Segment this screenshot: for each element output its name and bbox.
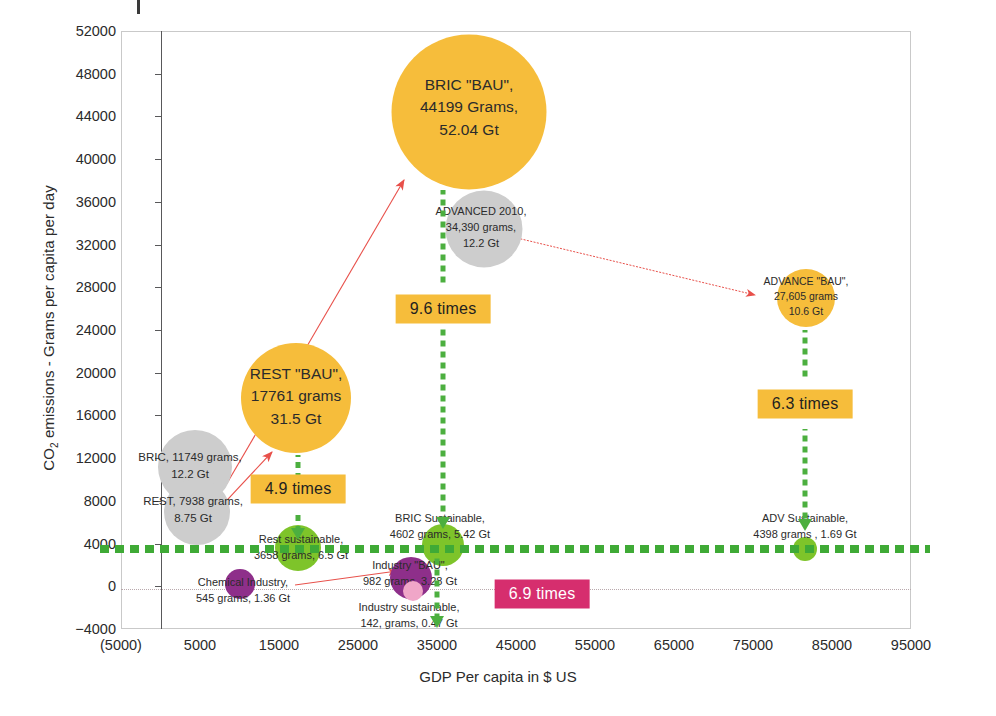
y-tick-label: −4000 [38, 621, 116, 637]
x-tick-label: 65000 [654, 637, 694, 653]
x-tick-label: (5000) [100, 637, 142, 653]
value-axis-tick [155, 202, 162, 203]
badge-ratio-industry[interactable]: 6.9 times [495, 580, 590, 609]
y-tick-label: 24000 [38, 322, 116, 338]
bubble-advance-bau[interactable] [777, 269, 835, 327]
connector-bric-lower [441, 329, 446, 517]
sustainable-threshold-line [100, 545, 930, 553]
bubble-advanced-2010[interactable] [446, 191, 523, 268]
value-axis-tick [155, 330, 162, 331]
bubble-chemical-industry[interactable] [225, 569, 255, 599]
y-tick-label: 8000 [38, 493, 116, 509]
y-axis-ticks: 5200048000440004000036000320002800024000… [30, 0, 116, 716]
scan-artifact-mark [137, 0, 140, 14]
y-tick-label: 52000 [38, 23, 116, 39]
bubble-bric-bau[interactable] [392, 35, 547, 190]
connector-bric-arrowhead [436, 517, 450, 529]
y-tick-label: 12000 [38, 450, 116, 466]
x-tick-label: 35000 [417, 637, 457, 653]
y-tick-label: 16000 [38, 407, 116, 423]
y-tick-label: 32000 [38, 237, 116, 253]
connector-advance-arrowhead [798, 519, 812, 531]
connector-industry-arrowhead [430, 616, 444, 628]
value-axis-tick [155, 159, 162, 160]
x-tick-label: 5000 [184, 637, 216, 653]
value-axis-tick [155, 74, 162, 75]
bubble-rest-bau[interactable] [241, 343, 351, 453]
value-axis-tick [155, 373, 162, 374]
connector-industry [435, 556, 440, 616]
x-tick-label: 95000 [891, 637, 931, 653]
chart-canvas: CO2 emissions - Grams per capita per day… [0, 0, 996, 716]
x-tick-label: 45000 [496, 637, 536, 653]
value-axis-tick [155, 287, 162, 288]
y-tick-label: 40000 [38, 151, 116, 167]
x-tick-label: 55000 [575, 637, 615, 653]
value-axis-tick [155, 415, 162, 416]
y-tick-label: 0 [38, 578, 116, 594]
connector-advance-lower [803, 429, 808, 519]
connector-rest-lower [296, 513, 301, 528]
badge-ratio-rest[interactable]: 4.9 times [251, 475, 346, 504]
x-tick-label: 25000 [338, 637, 378, 653]
value-axis-tick [155, 116, 162, 117]
value-axis-tick [155, 586, 162, 587]
y-tick-label: 36000 [38, 194, 116, 210]
bubble-industry-sustainable[interactable] [403, 581, 423, 601]
badge-ratio-bric[interactable]: 9.6 times [396, 295, 491, 324]
x-tick-label: 75000 [733, 637, 773, 653]
connector-advance [803, 330, 808, 378]
value-axis-tick [155, 501, 162, 502]
y-tick-label: 48000 [38, 66, 116, 82]
connector-bric [441, 190, 446, 286]
bubble-rest-2010[interactable] [164, 479, 230, 545]
y-tick-label: 28000 [38, 279, 116, 295]
y-tick-label: 44000 [38, 108, 116, 124]
y-tick-label: 20000 [38, 365, 116, 381]
connector-rest-arrowhead [291, 528, 305, 540]
x-tick-label: 15000 [259, 637, 299, 653]
badge-ratio-advance[interactable]: 6.3 times [758, 390, 853, 419]
x-axis-title: GDP Per capita in $ US [0, 668, 996, 685]
x-tick-label: 85000 [812, 637, 852, 653]
value-axis-tick [155, 245, 162, 246]
